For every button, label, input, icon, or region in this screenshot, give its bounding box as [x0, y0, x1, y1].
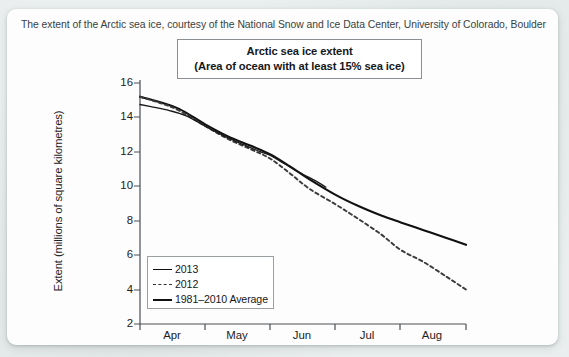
x-ticks	[140, 324, 466, 330]
legend-item-average: 1981–2010 Average	[153, 291, 273, 306]
series-line-1981-2010-average	[140, 97, 466, 245]
legend-label-2012: 2012	[175, 278, 198, 290]
legend-item-2012: 2012	[153, 276, 273, 291]
plot-svg	[7, 9, 558, 345]
legend-line-icon-2013	[153, 264, 172, 274]
legend-label-average: 1981–2010 Average	[175, 293, 268, 305]
chart-canvas: Arctic sea ice extent (Area of ocean wit…	[7, 9, 558, 345]
legend-line-icon-average	[153, 294, 172, 304]
series-line-2013	[140, 105, 326, 188]
legend-item-2013: 2013	[153, 261, 273, 276]
figure-card: The extent of the Arctic sea ice, courte…	[7, 9, 558, 345]
legend: 2013 2012 1981–2010 Average	[147, 256, 274, 309]
y-ticks	[134, 83, 140, 324]
legend-label-2013: 2013	[175, 263, 198, 275]
legend-dashed-line-icon-2012	[153, 279, 172, 289]
